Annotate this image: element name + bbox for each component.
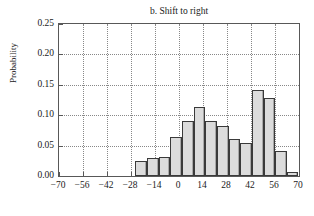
bar bbox=[182, 121, 194, 176]
y-axis-tick-label: 0.20 bbox=[2, 48, 54, 58]
y-axis-tick-label: 0.15 bbox=[2, 79, 54, 89]
y-axis-tick-mark bbox=[59, 176, 63, 177]
bar bbox=[275, 151, 287, 176]
bar bbox=[170, 137, 182, 176]
bar bbox=[229, 139, 241, 176]
bar bbox=[252, 90, 264, 176]
bars-layer bbox=[59, 24, 299, 176]
bar bbox=[135, 161, 147, 176]
x-axis-tick-labels: −70−56−42−28−1401428425670 bbox=[58, 180, 300, 198]
bar bbox=[205, 121, 217, 176]
y-axis-tick-label: 0.00 bbox=[2, 170, 54, 180]
bar bbox=[147, 158, 159, 176]
bar bbox=[217, 126, 229, 176]
y-axis-tick-labels: 0.000.050.100.150.200.25 bbox=[0, 23, 54, 177]
bar bbox=[194, 107, 206, 176]
histogram-figure: b. Shift to right Probability 0.000.050.… bbox=[0, 0, 314, 216]
bar bbox=[159, 157, 171, 176]
bar bbox=[264, 98, 276, 176]
bar bbox=[287, 172, 299, 176]
chart-title: b. Shift to right bbox=[58, 5, 300, 17]
y-axis-tick-label: 0.25 bbox=[2, 18, 54, 28]
plot-area bbox=[58, 23, 300, 177]
y-axis-tick-label: 0.05 bbox=[2, 140, 54, 150]
x-axis-tick-mark bbox=[299, 172, 300, 176]
y-axis-tick-label: 0.10 bbox=[2, 109, 54, 119]
bar bbox=[240, 143, 252, 176]
x-axis-tick-label: 70 bbox=[281, 180, 314, 191]
